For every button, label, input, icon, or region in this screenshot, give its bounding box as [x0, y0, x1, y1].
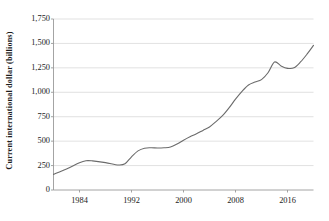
axis-lines: [54, 19, 314, 190]
chart-container: Current international dollar (billions) …: [0, 0, 329, 221]
plot-area: [0, 0, 329, 221]
gridlines: [54, 19, 314, 166]
data-series-line: [54, 45, 314, 174]
